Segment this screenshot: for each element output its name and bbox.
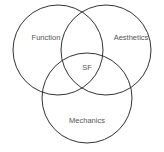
aesthetics-label: Aesthetics — [114, 33, 149, 42]
mechanics-label: Mechanics — [69, 116, 105, 125]
intersection-label: SF — [82, 63, 92, 72]
function-circle — [13, 5, 103, 95]
aesthetics-circle — [61, 5, 151, 95]
function-label: Function — [32, 33, 61, 42]
venn-diagram — [0, 0, 164, 152]
